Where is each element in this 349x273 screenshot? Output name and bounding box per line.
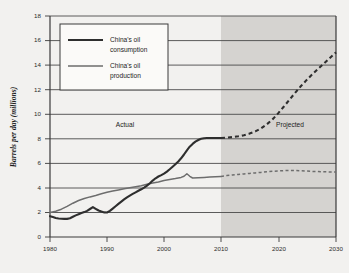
x-tick-label: 2020 [272,245,286,252]
y-tick-label: 2 [38,208,42,215]
y-tick-label: 16 [34,36,41,43]
chart-legend: China's oil consumption China's oil prod… [60,24,168,90]
y-axis-title: Barrels per day (millions) [9,86,18,168]
legend-label-consumption-line1: China's oil [110,36,141,43]
actual-region-label: Actual [116,121,135,128]
x-tick-label: 2000 [157,245,171,252]
y-tick-label: 6 [38,159,42,166]
y-tick-label: 4 [38,184,42,191]
legend-label-consumption-line2: consumption [110,46,148,54]
y-tick-label: 0 [38,233,42,240]
x-tick-label: 2030 [329,245,343,252]
x-tick-label: 1980 [43,245,57,252]
y-tick-label: 12 [34,86,41,93]
oil-line-chart: 0 2 4 6 8 10 12 14 16 18 1980 1990 2000 … [0,0,349,273]
projected-region-label: Projected [276,121,304,129]
chart-figure: 0 2 4 6 8 10 12 14 16 18 1980 1990 2000 … [0,0,349,273]
y-tick-label: 14 [34,61,41,68]
y-tick-label: 10 [34,110,41,117]
y-tick-label: 18 [34,12,41,19]
legend-label-production-line1: China's oil [110,62,141,69]
legend-box [60,24,168,90]
x-tick-label: 2010 [214,245,228,252]
y-tick-label: 8 [38,135,42,142]
legend-label-production-line2: production [110,72,141,80]
x-tick-label: 1990 [100,245,114,252]
